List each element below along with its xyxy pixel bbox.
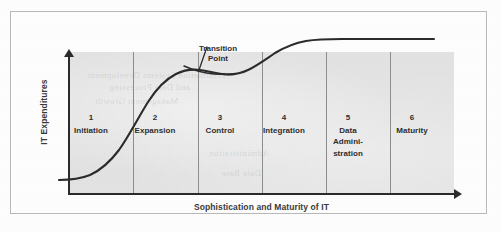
stage-number: 4 bbox=[252, 112, 316, 124]
stage-number: 5 bbox=[316, 112, 380, 124]
ghost-text-line-3: Management Growth bbox=[95, 96, 179, 106]
stage-name: Expansion bbox=[123, 125, 187, 137]
ghost-text-line-1: Information Systems Development bbox=[87, 70, 225, 80]
stage-name: Maturity bbox=[380, 125, 444, 137]
stage-label-6: 6 Maturity bbox=[380, 112, 444, 136]
stage-name: Data Admini- stration bbox=[316, 125, 380, 160]
stage-number: 2 bbox=[123, 112, 187, 124]
ghost-text-line-4: Administration bbox=[209, 148, 269, 158]
x-axis-line bbox=[68, 193, 455, 195]
stage-name: Control bbox=[188, 125, 252, 137]
stage-name: Initiation bbox=[59, 125, 123, 137]
stage-label-1: 1 Initiation bbox=[59, 112, 123, 136]
y-axis-arrow-icon bbox=[64, 49, 74, 57]
stage-number: 3 bbox=[188, 112, 252, 124]
stage-label-3: 3 Control bbox=[188, 112, 252, 136]
figure-frame: Information Systems Development and Data… bbox=[10, 11, 487, 214]
x-axis-arrow-icon bbox=[454, 189, 462, 199]
transition-point-label: Transition Point bbox=[187, 44, 249, 64]
ghost-text-line-5: Data Base bbox=[221, 168, 261, 178]
stage-number: 1 bbox=[59, 112, 123, 124]
stage-label-2: 2 Expansion bbox=[123, 112, 187, 136]
ghost-text-line-2: and Data Processing bbox=[109, 82, 190, 92]
stage-label-4: 4 Integration bbox=[252, 112, 316, 136]
y-axis-title: IT Expenditures bbox=[39, 57, 49, 167]
x-axis-title: Sophistication and Maturity of IT bbox=[69, 202, 454, 212]
scanned-page: Information Systems Development and Data… bbox=[0, 0, 501, 232]
stage-name: Integration bbox=[252, 125, 316, 137]
stage-number: 6 bbox=[380, 112, 444, 124]
stage-label-5: 5 Data Admini- stration bbox=[316, 112, 380, 159]
